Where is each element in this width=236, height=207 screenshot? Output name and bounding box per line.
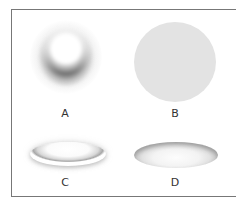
panel-label-a: A [55, 108, 75, 120]
sphere-a-shape [38, 26, 94, 86]
disc-b-shape [134, 22, 216, 102]
panel-label-c: C [55, 177, 75, 189]
ellipse-d-recessed [134, 142, 218, 168]
panel-label-b: B [165, 108, 185, 120]
panel-label-d: D [165, 177, 185, 189]
ellipse-c-embossed [30, 142, 106, 166]
